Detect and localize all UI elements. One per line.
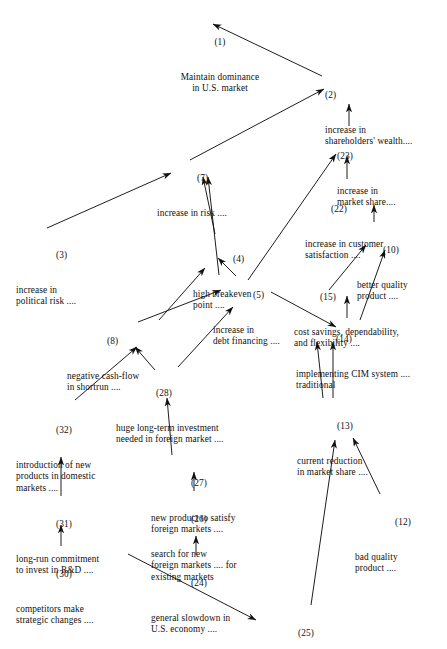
node-12-id: (12): [355, 517, 447, 528]
node-3-text: increase in political risk ....: [16, 285, 126, 308]
node-22-id: (22): [305, 204, 447, 215]
node-31-id: (31): [16, 519, 141, 530]
node-25[interactable]: (25) must continue to offer wide range o…: [258, 605, 447, 649]
node-30-text: competitors make strategic changes ....: [16, 604, 138, 627]
node-12-text: bad quality product ....: [355, 552, 447, 575]
node-24-id: (24): [151, 578, 281, 589]
node-15-id: (15): [294, 292, 447, 303]
node-4-id: (4): [193, 254, 301, 265]
node-13-id: (13): [297, 421, 415, 432]
node-28-id: (28): [116, 388, 271, 399]
node-14-id: (14): [296, 334, 447, 345]
node-1[interactable]: (1) Maintain dominance in U.S. market: [150, 14, 290, 118]
node-27-id: (27): [151, 478, 281, 489]
node-14-text: implementing CIM system .... traditional: [296, 369, 447, 392]
node-3-id: (3): [16, 250, 126, 261]
node-30[interactable]: (30) competitors make strategic changes …: [16, 546, 138, 649]
node-7-id: (7): [157, 173, 277, 184]
node-8-id: (8): [67, 336, 182, 347]
node-13[interactable]: (13) current reduction in market share .…: [297, 398, 415, 502]
node-23-id: (23): [337, 151, 447, 162]
node-7[interactable]: (7) increase in risk ....: [157, 150, 277, 243]
node-32-id: (32): [16, 425, 136, 436]
node-25-id: (25): [258, 628, 447, 639]
node-2-id: (2): [325, 90, 447, 101]
node-13-text: current reduction in market share ....: [297, 456, 415, 479]
node-32-text: introduction of new products in domestic…: [16, 460, 136, 495]
edge-3-to-7: [47, 173, 171, 228]
node-28-text: huge long-term investment needed in fore…: [116, 423, 271, 446]
diagram-canvas: (1) Maintain dominance in U.S. market (2…: [0, 0, 447, 649]
node-10-id: (10): [357, 245, 447, 256]
node-28[interactable]: (28) huge long-term investment needed in…: [116, 365, 271, 469]
node-12[interactable]: (12) bad quality product ....: [355, 494, 447, 598]
node-7-text: increase in risk ....: [157, 208, 277, 220]
node-1-id: (1): [150, 37, 290, 48]
node-1-text: Maintain dominance in U.S. market: [150, 72, 290, 95]
node-30-id: (30): [16, 569, 138, 580]
node-26-id: (26): [151, 514, 296, 525]
